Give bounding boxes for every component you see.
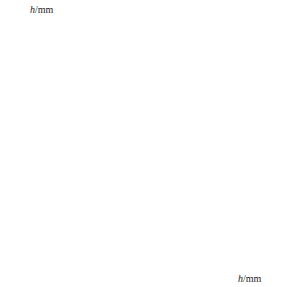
y-axis-label: h/mm: [30, 4, 54, 15]
x-axis-label: h/mm: [238, 273, 262, 284]
contour-diagram: h/mm h/mm: [0, 0, 283, 287]
